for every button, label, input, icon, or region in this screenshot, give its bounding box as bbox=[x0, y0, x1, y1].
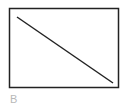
diagonal-line bbox=[17, 17, 113, 83]
figure-label: B bbox=[10, 93, 17, 105]
diagram-figure bbox=[0, 0, 130, 108]
